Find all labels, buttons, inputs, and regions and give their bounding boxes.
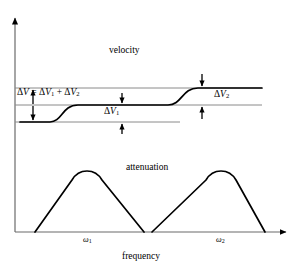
x-tick-label-omega-1: ω1 xyxy=(83,236,92,244)
attenuation-curve-group xyxy=(35,171,265,232)
plus-symbol: + xyxy=(54,87,64,97)
delta-v-total-label: ΔV = ΔV1 + ΔV2 xyxy=(17,88,80,98)
subscript: 2 xyxy=(226,92,229,99)
figure-container: velocity attenuation ΔV = ΔV1 + ΔV2 ΔV1 … xyxy=(0,0,307,275)
subscript: 1 xyxy=(116,109,119,116)
axis-group xyxy=(15,18,286,232)
delta-v2-label: ΔV2 xyxy=(214,90,229,100)
delta-v1-label: ΔV1 xyxy=(104,107,119,117)
attenuation-peak-2 xyxy=(152,171,265,232)
omega-subscript: 1 xyxy=(89,238,92,244)
attenuation-label: attenuation xyxy=(126,163,168,173)
subscript-2: 2 xyxy=(76,90,79,97)
equals-symbol: = xyxy=(29,87,39,97)
attenuation-peak-1 xyxy=(35,171,144,232)
omega-subscript: 2 xyxy=(222,238,225,244)
diagram-canvas xyxy=(0,0,307,275)
x-tick-label-omega-2: ω2 xyxy=(216,236,225,244)
x-axis-label: frequency xyxy=(122,252,160,262)
velocity-label: velocity xyxy=(109,46,140,56)
